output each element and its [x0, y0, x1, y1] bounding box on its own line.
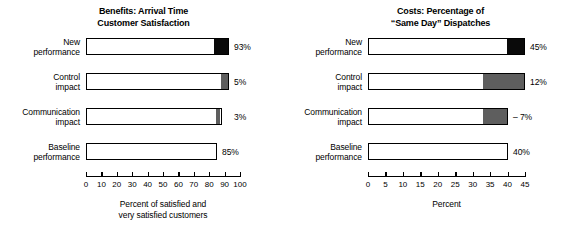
chart-panel-costs: Costs: Percentage of “Same Day” Dispatch…	[287, 0, 574, 231]
x-axis-tick	[508, 172, 509, 178]
bar-segment-increment	[214, 39, 228, 54]
category-label-line-1: Baseline	[33, 141, 80, 152]
x-tick-label: 70	[189, 180, 198, 189]
x-axis-tick	[385, 172, 386, 178]
x-axis-caption-line-1: Percent of satisfied and	[74, 199, 252, 210]
bar-control-impact	[86, 73, 229, 90]
x-axis-tick	[101, 172, 102, 178]
bar-segment-increment	[483, 109, 507, 124]
bar-value-label: 5%	[234, 77, 246, 87]
bar-control-impact	[368, 73, 525, 90]
category-label-line-1: Control	[335, 71, 362, 82]
x-tick-label: 15	[416, 180, 425, 189]
bar-segment-increment	[221, 74, 229, 89]
bar-value-label: 12%	[530, 77, 547, 87]
bar-row: Baseline performance 40%	[368, 141, 525, 162]
x-axis-line	[368, 176, 525, 177]
category-label-line-2: impact	[335, 82, 362, 93]
x-tick-label: 40	[503, 180, 512, 189]
chart-title-line-1: Costs: Percentage of	[297, 6, 575, 18]
x-axis-tick	[438, 172, 439, 178]
bar-segment-baseline	[369, 144, 507, 159]
category-label-line-2: performance	[33, 47, 80, 58]
chart-panel-benefits: Benefits: Arrival Time Customer Satisfac…	[0, 0, 287, 231]
bar-segment-increment	[216, 109, 221, 124]
x-tick-label: 40	[143, 180, 152, 189]
x-tick-label: 30	[468, 180, 477, 189]
x-tick-label: 20	[433, 180, 442, 189]
bar-value-label: 40%	[513, 147, 530, 157]
x-tick-label: 50	[159, 180, 168, 189]
bar-value-label: 45%	[530, 42, 547, 52]
bar-baseline-performance	[86, 143, 217, 160]
bar-row: Communication impact 3%	[86, 106, 240, 127]
category-label-line-1: Communication	[22, 106, 80, 117]
x-tick-label: 60	[174, 180, 183, 189]
x-axis-tick	[490, 172, 491, 178]
bar-segment-baseline	[87, 109, 216, 124]
bar-new-performance	[368, 38, 525, 55]
chart-title-benefits: Benefits: Arrival Time Customer Satisfac…	[0, 6, 287, 29]
bar-value-label: – 7%	[513, 112, 532, 122]
x-axis-tick	[455, 172, 456, 178]
category-label: Baseline performance	[33, 141, 80, 162]
x-tick-label: 10	[97, 180, 106, 189]
x-tick-label: 35	[486, 180, 495, 189]
x-axis-tick	[240, 172, 241, 178]
category-label: Communication impact	[22, 106, 80, 127]
x-axis-tick	[178, 172, 179, 178]
bar-segment-baseline	[369, 39, 507, 54]
x-tick-label: 90	[220, 180, 229, 189]
bar-row: Communication impact – 7%	[368, 106, 525, 127]
category-label-line-1: Communication	[304, 106, 362, 117]
category-label-line-2: performance	[33, 152, 80, 163]
category-label-line-2: performance	[315, 152, 362, 163]
bar-row: New performance 45%	[368, 36, 525, 57]
x-tick-label: 0	[366, 180, 370, 189]
x-tick-label: 0	[84, 180, 88, 189]
chart-title-line-1: Benefits: Arrival Time	[0, 6, 287, 18]
x-tick-label: 45	[521, 180, 530, 189]
chart-title-line-2: Customer Satisfaction	[0, 18, 287, 30]
plot-area-benefits: New performance 93% Control impact	[86, 36, 240, 176]
x-axis-tick	[86, 172, 87, 178]
x-axis-costs: 0 5 10 15 20 25 30 35 40 45	[368, 176, 525, 194]
x-axis-tick	[209, 172, 210, 178]
x-axis-caption-benefits: Percent of satisfied and very satisfied …	[74, 199, 252, 221]
bar-value-label: 85%	[222, 147, 239, 157]
category-label-line-1: Control	[53, 71, 80, 82]
category-label-line-2: impact	[22, 117, 80, 128]
x-axis-tick	[420, 172, 421, 178]
category-label: New performance	[315, 36, 362, 57]
x-axis-tick	[163, 172, 164, 178]
x-tick-label: 30	[128, 180, 137, 189]
chart-title-costs: Costs: Percentage of “Same Day” Dispatch…	[297, 6, 575, 29]
category-label-line-2: performance	[315, 47, 362, 58]
category-label: Control impact	[53, 71, 80, 92]
bar-segment-baseline	[369, 109, 483, 124]
bar-segment-baseline	[87, 74, 221, 89]
x-tick-label: 100	[233, 180, 246, 189]
x-axis-caption-line-1: Percent	[368, 199, 525, 210]
bar-baseline-performance	[368, 143, 508, 160]
bar-segment-baseline	[369, 74, 483, 89]
category-label-line-2: impact	[53, 82, 80, 93]
x-axis-tick	[368, 172, 369, 178]
x-axis-caption-costs: Percent	[368, 199, 525, 210]
x-tick-label: 20	[112, 180, 121, 189]
bar-row: Control impact 12%	[368, 71, 525, 92]
bar-segment-baseline	[87, 144, 216, 159]
x-axis-caption-line-2: very satisfied customers	[74, 210, 252, 221]
x-axis-benefits: 0 10 20 30 40 50 60 70 80 90 100	[86, 176, 240, 194]
x-tick-label: 80	[205, 180, 214, 189]
bar-communication-impact	[368, 108, 508, 125]
category-label: New performance	[33, 36, 80, 57]
x-axis-tick	[132, 172, 133, 178]
x-axis-tick	[525, 172, 526, 178]
x-tick-label: 10	[398, 180, 407, 189]
bar-row: Control impact 5%	[86, 71, 240, 92]
x-axis-tick	[194, 172, 195, 178]
category-label-line-1: New	[33, 36, 80, 47]
bar-segment-increment	[507, 39, 524, 54]
x-axis-tick	[403, 172, 404, 178]
